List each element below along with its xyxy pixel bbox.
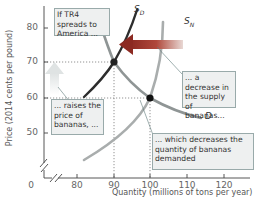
callout-quantity-decrease: ... which decreases the quantity of bana… <box>152 133 254 170</box>
supply-shift-arrow <box>119 34 183 55</box>
x-tick-90: 90 <box>104 180 124 190</box>
y-axis-label: Price (2014 cents per pound) <box>5 23 17 153</box>
y-tick-60: 60 <box>22 92 38 102</box>
y-tick-50: 50 <box>22 127 38 137</box>
equilibrium-point-initial <box>146 94 153 101</box>
x-tick-100: 100 <box>140 180 160 190</box>
callout-supply-decrease: ... a decrease in the supply of bananas.… <box>182 71 236 108</box>
origin-tick-0: 0 <box>24 180 38 190</box>
x-tick-80: 80 <box>67 180 87 190</box>
equilibrium-point-new <box>110 58 117 65</box>
x-tick-120: 120 <box>214 180 234 190</box>
callout-price-raise: ... raises the price of bananas, ... <box>51 99 104 135</box>
y-tick-70: 70 <box>22 56 38 66</box>
supply-demand-chart: Price (2014 cents per pound) Quantity (m… <box>0 0 256 209</box>
x-tick-110: 110 <box>177 180 197 190</box>
y-tick-80: 80 <box>22 22 38 32</box>
callout-tr4-spreads: If TR4 spreads to America ... <box>54 8 110 36</box>
price-increase-arrow <box>45 62 64 95</box>
curve-label-sn: SN <box>184 16 194 28</box>
curve-label-sd: SD <box>134 4 144 16</box>
